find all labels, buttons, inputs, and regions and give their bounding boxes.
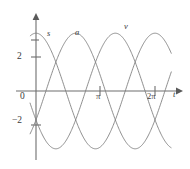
curve-label-v: v [124,22,128,31]
y-tick-label-0: 0 [20,92,25,102]
x-axis-label: t [173,90,175,99]
y-tick-label-minus-2: −2 [12,116,22,126]
curve-label-a: a [75,28,79,37]
x-tick-label-pi: π [96,92,100,101]
x-tick-label-2pi: 2π [147,92,156,101]
x-axis-arrow-icon [176,88,183,95]
plot-canvas [0,0,190,169]
sinusoid-plot-figure: 2 0 −2 π 2π t s a v [0,0,190,169]
y-tick-label-2: 2 [17,52,22,62]
y-axis-arrow-icon [33,13,40,20]
curve-label-s: s [47,29,50,38]
